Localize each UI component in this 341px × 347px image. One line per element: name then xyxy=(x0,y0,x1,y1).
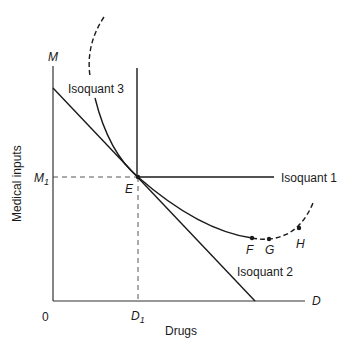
isoquant-1-label: Isoquant 1 xyxy=(281,171,337,185)
isoquant-3-curve-dashed-upper xyxy=(89,17,104,76)
isoquant-diagram: M D 0 M1 D1 Drugs Medical inputs E F G H… xyxy=(0,0,341,347)
point-h-marker xyxy=(297,226,301,230)
y-axis-end-label: M xyxy=(48,50,58,64)
d1-tick-label: D1 xyxy=(131,309,145,325)
x-axis-title: Drugs xyxy=(165,324,197,338)
point-f-label: F xyxy=(246,243,254,257)
point-f-marker xyxy=(250,236,254,240)
isoquant-3-curve-dashed-lower xyxy=(252,203,313,239)
m1-tick-label: M1 xyxy=(34,171,49,187)
isoquant-2-label: Isoquant 2 xyxy=(237,265,293,279)
point-e-marker xyxy=(136,175,140,179)
point-h-label: H xyxy=(296,237,305,251)
point-e-label: E xyxy=(125,182,134,196)
point-g-label: G xyxy=(265,243,274,257)
y-axis-title: Medical inputs xyxy=(10,145,24,222)
isoquant-1-curve xyxy=(137,68,274,177)
isoquant-3-label: Isoquant 3 xyxy=(68,82,124,96)
origin-label: 0 xyxy=(42,310,49,324)
x-axis-end-label: D xyxy=(312,294,321,308)
isoquant-3-curve-solid xyxy=(95,98,252,238)
isoquant-2-curve xyxy=(53,88,255,301)
point-g-marker xyxy=(267,237,271,241)
